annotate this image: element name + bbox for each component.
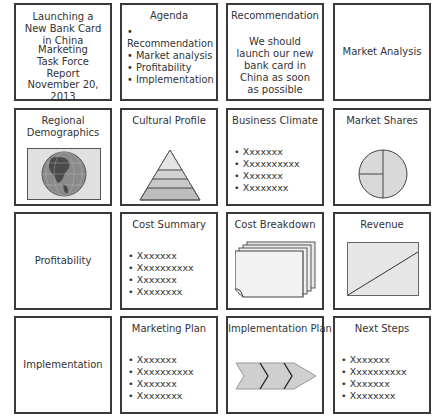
list-item: Xxxxxxx [128,378,194,390]
list-item: Xxxxxxxx [128,390,194,402]
slide-market-shares: Market Shares [333,108,431,206]
list-item: Recommendation [127,26,216,50]
bullet-list: Xxxxxxx Xxxxxxxxxx Xxxxxxx Xxxxxxxx [341,354,407,402]
agenda-list: Recommendation Market analysis Profitabi… [127,26,216,86]
slide-title: Cost Summary [122,219,216,231]
list-item: Xxxxxxx [128,274,194,286]
line-chart-icon [347,242,419,296]
slide-cost-summary: Cost Summary Xxxxxxx Xxxxxxxxxx Xxxxxxx … [120,212,218,310]
list-item: Xxxxxxx [341,354,407,366]
slide-implementation: Implementation [14,316,112,414]
pyramid-icon [138,148,202,202]
cover-date: November 20, 2013 [16,79,110,103]
list-item: Xxxxxxxxxx [128,262,194,274]
list-item: Xxxxxxxxxx [234,158,300,170]
list-item: Xxxxxxxxxx [341,366,407,378]
slide-title: Revenue [335,219,429,231]
list-item: Xxxxxxx [128,250,194,262]
section-title: Implementation [16,318,110,412]
stacked-pages-icon [235,240,319,298]
list-item: Xxxxxxxx [128,286,194,298]
bullet-list: Xxxxxxx Xxxxxxxxxx Xxxxxxx Xxxxxxxx [234,146,300,194]
list-item: Xxxxxxxx [341,390,407,402]
bullet-list: Xxxxxxx Xxxxxxxxxx Xxxxxxx Xxxxxxxx [128,354,194,402]
slide-recommendation: Recommendation We should launch our new … [226,3,324,101]
chevron-process-icon [234,362,318,390]
slide-implementation-plan: Implementation Plan [226,316,324,414]
list-item: Implementation [127,74,216,86]
slide-next-steps: Next Steps Xxxxxxx Xxxxxxxxxx Xxxxxxx Xx… [333,316,431,414]
section-title: Profitability [16,214,110,308]
list-item: Xxxxxxxx [234,182,300,194]
list-item: Xxxxxxx [234,170,300,182]
slide-title: Cultural Profile [122,115,216,127]
slide-title: Marketing Plan [122,323,216,335]
list-item: Profitability [127,62,216,74]
slide-title: Business Climate [228,115,322,127]
bullet-list: Xxxxxxx Xxxxxxxxxx Xxxxxxx Xxxxxxxx [128,250,194,298]
list-item: Xxxxxxx [341,378,407,390]
globe-icon [27,148,101,200]
slide-business-climate: Business Climate Xxxxxxx Xxxxxxxxxx Xxxx… [226,108,324,206]
pie-chart-icon [357,148,409,200]
list-item: Xxxxxxx [234,146,300,158]
slide-regional-demographics: Regional Demographics [14,108,112,206]
slide-cover: Launching a New Bank Card in China Marke… [14,3,112,101]
slide-title: Next Steps [335,323,429,335]
slide-title: Market Shares [335,115,429,127]
slide-agenda: Agenda Recommendation Market analysis Pr… [120,3,218,101]
slide-marketing-plan: Marketing Plan Xxxxxxx Xxxxxxxxxx Xxxxxx… [120,316,218,414]
list-item: Xxxxxxx [128,354,194,366]
slide-cultural-profile: Cultural Profile [120,108,218,206]
section-title: Market Analysis [335,5,429,99]
slide-profitability: Profitability [14,212,112,310]
slide-title: Regional Demographics [16,115,110,139]
slide-title: Cost Breakdown [228,219,322,231]
list-item: Market analysis [127,50,216,62]
slide-cost-breakdown: Cost Breakdown [226,212,324,310]
cover-subtitle: Marketing Task Force Report [16,44,110,80]
list-item: Xxxxxxxxxx [128,366,194,378]
slide-title: Implementation Plan [228,323,322,335]
slide-revenue: Revenue [333,212,431,310]
slide-title: Recommendation [228,10,322,22]
slide-market-analysis: Market Analysis [333,3,431,101]
recommendation-text: We should launch our new bank card in Ch… [228,36,322,96]
slide-title: Agenda [122,10,216,22]
cover-title: Launching a New Bank Card in China [16,11,110,47]
